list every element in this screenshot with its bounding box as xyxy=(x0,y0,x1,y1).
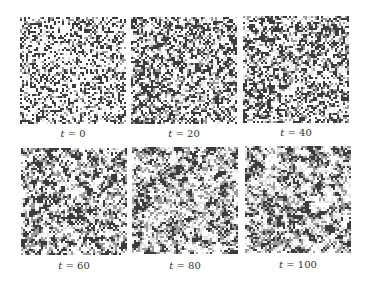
label-variable: t xyxy=(60,128,64,139)
lattice-panel-t100 xyxy=(245,146,351,253)
lattice-panel-t80 xyxy=(132,147,238,254)
label-value: 60 xyxy=(77,260,90,271)
label-variable: t xyxy=(169,260,173,271)
panel-label: t = 60 xyxy=(21,260,127,271)
label-value: 40 xyxy=(299,127,312,138)
panel-label: t = 0 xyxy=(20,128,126,139)
panel-label: t = 80 xyxy=(132,260,238,271)
label-value: 20 xyxy=(187,128,200,139)
label-variable: t xyxy=(279,259,283,270)
panel-label: t = 40 xyxy=(243,127,349,138)
lattice-canvas xyxy=(132,147,238,254)
lattice-canvas xyxy=(20,17,126,124)
lattice-canvas xyxy=(245,146,351,253)
lattice-panel-t0 xyxy=(20,17,126,124)
panel-label: t = 20 xyxy=(131,128,237,139)
label-variable: t xyxy=(168,128,172,139)
label-value: 80 xyxy=(188,260,201,271)
lattice-canvas xyxy=(243,16,349,123)
label-variable: t xyxy=(58,260,62,271)
panel-label: t = 100 xyxy=(245,259,351,270)
lattice-panel-t20 xyxy=(131,17,237,124)
lattice-panel-t40 xyxy=(243,16,349,123)
label-value: 0 xyxy=(79,128,85,139)
label-value: 100 xyxy=(298,259,317,270)
lattice-panel-t60 xyxy=(21,148,127,255)
lattice-canvas xyxy=(21,148,127,255)
label-variable: t xyxy=(280,127,284,138)
lattice-canvas xyxy=(131,17,237,124)
